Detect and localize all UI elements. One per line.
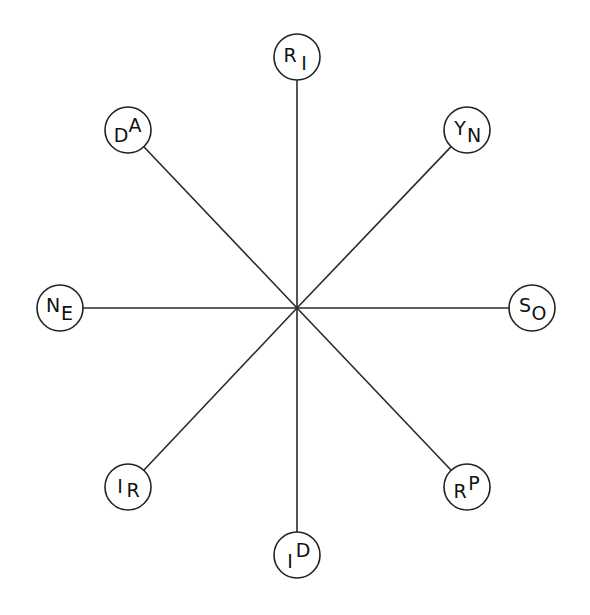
star-diagram: RIYNSORPIDIRNEDA — [0, 0, 590, 615]
node-top-left: DA — [105, 107, 151, 153]
spoke-bottom-left — [144, 308, 297, 470]
node-circle — [444, 464, 490, 510]
node-letter-first: Y — [453, 117, 466, 139]
node-letter-first: S — [519, 294, 531, 316]
node-left: NE — [37, 285, 83, 331]
spokes — [83, 80, 509, 532]
node-top-right: YN — [444, 107, 490, 153]
node-letter-first: I — [287, 550, 293, 572]
node-bottom-left: IR — [105, 464, 151, 510]
node-letter-second: N — [467, 124, 481, 146]
node-letter-second: A — [129, 114, 142, 136]
node-letter-first: I — [117, 475, 123, 497]
node-letter-second: R — [126, 479, 139, 501]
spoke-top-left — [144, 147, 297, 308]
node-letter-first: N — [46, 294, 60, 316]
node-circle — [274, 34, 320, 80]
node-letter-first: R — [283, 44, 296, 66]
node-top: RI — [274, 34, 320, 80]
node-bottom: ID — [274, 532, 320, 578]
node-letter-second: O — [532, 302, 547, 324]
node-letter-second: D — [296, 539, 311, 561]
node-letter-second: P — [468, 472, 479, 494]
node-right: SO — [509, 285, 555, 331]
node-letter-second: I — [301, 52, 307, 74]
node-letter-first: D — [114, 124, 129, 146]
node-bottom-right: RP — [444, 464, 490, 510]
spoke-bottom-right — [297, 308, 451, 470]
node-letter-first: R — [453, 480, 466, 502]
spoke-top-right — [297, 147, 451, 308]
node-letter-second: E — [61, 302, 73, 324]
